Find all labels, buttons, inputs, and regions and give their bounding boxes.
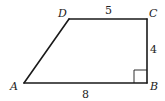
vertex-label-d: D	[57, 7, 67, 20]
length-label-ab: 8	[82, 88, 89, 101]
length-label-dc: 5	[105, 4, 112, 17]
vertex-label-b: B	[149, 80, 158, 93]
right-angle-marker	[134, 70, 147, 83]
edge-da	[24, 19, 69, 83]
length-label-cb: 4	[150, 43, 157, 56]
trapezoid-diagram: A B C D 5 4 8	[0, 0, 165, 101]
vertex-label-a: A	[9, 80, 18, 93]
vertex-label-c: C	[149, 7, 158, 20]
